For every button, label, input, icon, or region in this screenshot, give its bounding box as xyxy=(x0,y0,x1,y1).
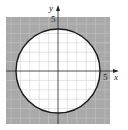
region-plot: y 5 5 x xyxy=(0,0,128,130)
x-tick-label-5: 5 xyxy=(103,72,108,82)
y-axis-arrow-icon xyxy=(56,5,60,11)
y-axis-label: y xyxy=(48,3,53,13)
x-axis-label: x xyxy=(113,72,118,82)
y-tick-label-5: 5 xyxy=(51,14,56,24)
